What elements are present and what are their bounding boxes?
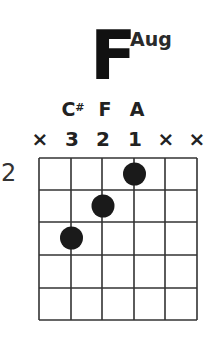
finger-dot-string-3-fret-3 xyxy=(92,195,115,218)
finger-dot-string-2-fret-4 xyxy=(60,227,83,250)
finger-dot-string-4-fret-2 xyxy=(123,163,146,186)
fretboard-grid xyxy=(0,0,221,339)
finger-dots xyxy=(60,163,146,250)
chord-diagram: F Aug C# F A × 3 2 1 × × 2 xyxy=(0,0,221,339)
